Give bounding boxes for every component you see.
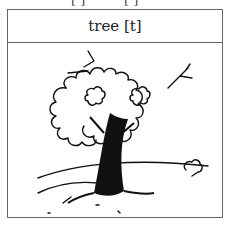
cropped-bracket-fragment-right: [ ]	[124, 0, 138, 6]
tree-icon	[8, 43, 221, 217]
tree-illustration	[8, 43, 222, 217]
card-label: tree [t]	[88, 17, 141, 35]
vocabulary-card: tree [t]	[7, 9, 223, 218]
cropped-bracket-fragment-left: [ ]	[71, 0, 85, 6]
card-header: tree [t]	[8, 10, 222, 43]
